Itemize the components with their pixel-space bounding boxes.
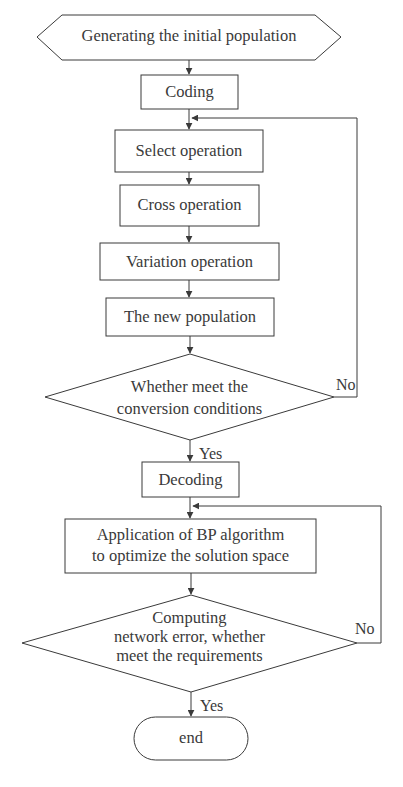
decision1-diamond xyxy=(45,354,334,440)
yes-label-2: Yes xyxy=(200,697,223,715)
end-label: end xyxy=(134,728,248,748)
bp-line1: Application of BP algorithm xyxy=(65,525,316,545)
no-label-2: No xyxy=(355,620,375,638)
decision1-line1: Whether meet the xyxy=(45,377,334,397)
cross-label: Cross operation xyxy=(120,195,259,215)
decision1-line2: conversion conditions xyxy=(45,399,334,419)
new-population-label: The new population xyxy=(106,307,274,327)
decision2-line2: network error, whether xyxy=(22,627,357,647)
decision2-line1: Computing xyxy=(22,608,357,628)
yes-label-1: Yes xyxy=(199,445,222,463)
bp-line2: to optimize the solution space xyxy=(65,546,316,566)
figure-caption-cropped xyxy=(0,775,403,787)
no-label-1: No xyxy=(336,376,356,394)
decision2-line3: meet the requirements xyxy=(22,646,357,666)
coding-label: Coding xyxy=(141,82,238,102)
variation-label: Variation operation xyxy=(100,252,279,272)
decoding-label: Decoding xyxy=(142,470,239,490)
select-label: Select operation xyxy=(115,141,263,161)
start-label: Generating the initial population xyxy=(37,26,341,46)
